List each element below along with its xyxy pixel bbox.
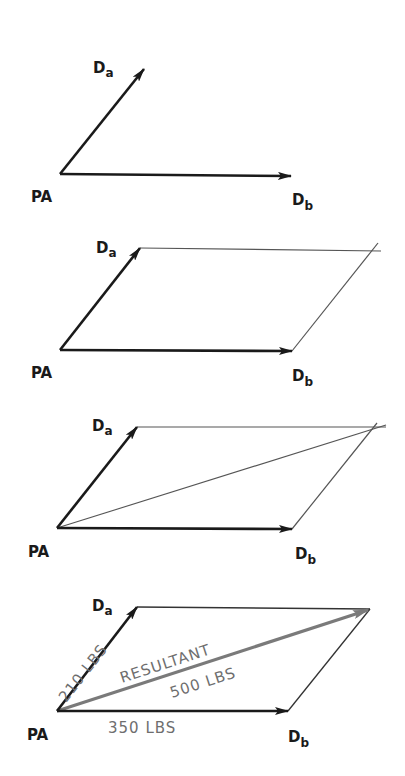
vector-db-arrow [57,528,292,529]
resultant-magnitude: 500 LBS [168,664,239,702]
diagonal-line [57,425,386,528]
label-pa: PA [27,726,49,744]
label-da: Da [96,239,117,260]
vector-db-arrow [60,350,292,351]
label-da: Da [92,597,113,618]
step-1-diagram: Da PA Db [31,59,313,213]
label-db: Db [292,191,313,213]
vector-da-arrow [57,427,137,528]
label-db: Db [288,728,309,750]
step-3-diagram: Da PA Db [28,417,386,567]
step-2-diagram: Da PA Db [31,239,381,389]
parallelogram-top [137,607,370,609]
label-pa: PA [31,188,53,206]
vector-db-arrow [60,174,291,176]
label-da: Da [92,417,113,438]
label-db: Db [295,545,316,567]
label-db: Db [292,367,313,389]
label-pa: PA [28,543,50,561]
construction-line-right [292,243,378,351]
step-4-diagram: 210 LBS RESULTANT 500 LBS 350 LBS Da PA … [27,597,370,750]
vector-diagram: Da PA Db Da PA Db Da PA Db 210 LBS RESUL… [0,0,405,776]
vector-da-arrow [60,69,144,174]
construction-line-top [140,248,381,251]
magnitude-db: 350 LBS [108,719,176,737]
label-da: Da [93,59,114,80]
vector-da-arrow [60,248,140,350]
label-pa: PA [31,364,53,382]
construction-line-right [292,423,377,529]
